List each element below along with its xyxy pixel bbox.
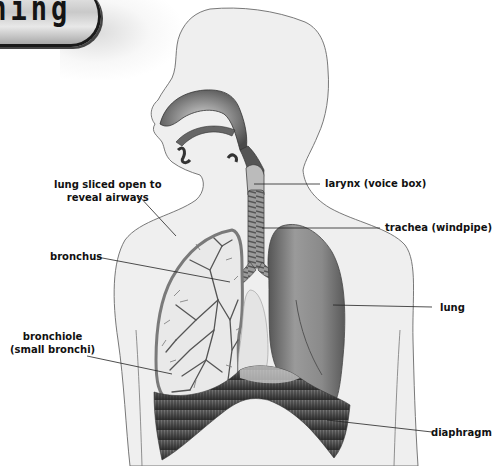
- label-bronchiole-line1: bronchiole: [10, 330, 95, 343]
- label-trachea: trachea (windpipe): [385, 221, 492, 234]
- label-lung-sliced-line2: reveal airways: [54, 191, 162, 204]
- label-lung-sliced-line1: lung sliced open to: [54, 178, 162, 191]
- label-bronchiole: bronchiole (small bronchi): [10, 330, 95, 356]
- label-diaphragm: diaphragm: [431, 426, 492, 439]
- label-larynx: larynx (voice box): [325, 177, 426, 190]
- label-lung-sliced: lung sliced open to reveal airways: [54, 178, 162, 204]
- label-bronchiole-line2: (small bronchi): [10, 343, 95, 356]
- trachea-shape: [248, 190, 264, 268]
- label-lung: lung: [440, 301, 465, 314]
- label-bronchus: bronchus: [50, 250, 102, 263]
